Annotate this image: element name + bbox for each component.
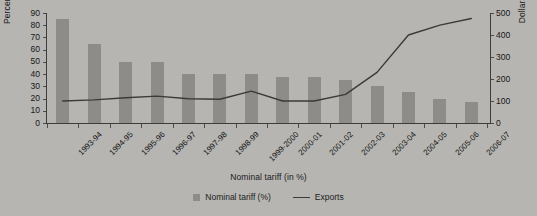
- x-axis-category-label: 2006-07: [485, 130, 512, 157]
- x-axis-category-label: 2005-06: [453, 130, 480, 157]
- y-axis-right-tick-label: 0: [496, 119, 522, 128]
- y-axis-left-tick-label: 20: [18, 94, 40, 103]
- y-axis-left-tickmark: [43, 25, 46, 26]
- y-axis-left-tick-label: 40: [18, 70, 40, 79]
- legend-square-swatch-icon: [193, 194, 200, 201]
- x-axis-tickmark: [173, 124, 174, 128]
- y-axis-left-tick-label: 30: [18, 82, 40, 91]
- chart-legend: Nominal tariff (%) Exports: [0, 192, 537, 202]
- x-axis-category-label: 2002-03: [359, 130, 386, 157]
- exports-line-series: [47, 13, 487, 123]
- y-axis-left-tick-label: 90: [18, 9, 40, 18]
- legend-line-swatch-icon: [293, 197, 310, 198]
- legend-label-nominal-tariff: Nominal tariff (%): [205, 192, 271, 202]
- y-axis-right-tick-label: 500: [496, 9, 522, 18]
- x-axis-tickmark: [267, 124, 268, 128]
- x-axis-category-label: 1994-95: [108, 130, 135, 157]
- y-axis-left-tickmark: [43, 111, 46, 112]
- x-axis-category-label: 1998-99: [233, 130, 260, 157]
- x-axis-tickmark: [78, 124, 79, 128]
- x-axis-category-label: 2003-04: [391, 130, 418, 157]
- x-axis-tickmark: [393, 124, 394, 128]
- x-axis-category-label: 1995-96: [139, 130, 166, 157]
- x-axis-category-label: 2001-02: [328, 130, 355, 157]
- x-axis-tickmark: [204, 124, 205, 128]
- x-axis-title: Nominal tariff (in %): [0, 172, 537, 182]
- y-axis-right-tickmark: [491, 35, 494, 36]
- x-axis-tickmark: [47, 124, 48, 128]
- y-axis-left-tickmark: [43, 50, 46, 51]
- legend-label-exports: Exports: [315, 192, 344, 202]
- y-axis-right-line: [490, 13, 491, 124]
- x-axis-tickmark: [424, 124, 425, 128]
- y-axis-right-tick-label: 300: [496, 53, 522, 62]
- legend-item-exports: Exports: [293, 192, 344, 202]
- x-axis-tickmark: [330, 124, 331, 128]
- y-axis-right-tickmark: [491, 57, 494, 58]
- x-axis-tickmark: [110, 124, 111, 128]
- y-axis-right-tickmark: [491, 101, 494, 102]
- y-axis-left-tickmark: [43, 99, 46, 100]
- y-axis-left-tick-label: 10: [18, 106, 40, 115]
- x-axis-tickmark: [456, 124, 457, 128]
- y-axis-left-tickmark: [43, 123, 46, 124]
- x-axis-category-label: 1993-94: [76, 130, 103, 157]
- y-axis-left-tick-label: 50: [18, 57, 40, 66]
- x-axis-tickmark: [487, 124, 488, 128]
- plot-area: [47, 13, 487, 123]
- x-axis-tickmark: [141, 124, 142, 128]
- x-axis-tickmark: [298, 124, 299, 128]
- y-axis-right-tickmark: [491, 13, 494, 14]
- x-axis-category-label: 2004-05: [422, 130, 449, 157]
- y-axis-left-tickmark: [43, 86, 46, 87]
- y-axis-right-tick-label: 200: [496, 75, 522, 84]
- y-axis-left-tickmark: [43, 62, 46, 63]
- x-axis-category-label: 1996-97: [171, 130, 198, 157]
- y-axis-right-tickmark: [491, 123, 494, 124]
- y-axis-right-tick-label: 400: [496, 31, 522, 40]
- x-axis-category-label: 1997-98: [202, 130, 229, 157]
- y-axis-left-tickmark: [43, 37, 46, 38]
- x-axis-tickmark: [236, 124, 237, 128]
- y-axis-left-title: Percent: [2, 0, 12, 44]
- y-axis-left-tickmark: [43, 13, 46, 14]
- y-axis-left-tick-label: 70: [18, 33, 40, 42]
- y-axis-right-tickmark: [491, 79, 494, 80]
- legend-item-nominal-tariff: Nominal tariff (%): [193, 192, 271, 202]
- x-axis-category-label: 2000-01: [296, 130, 323, 157]
- y-axis-right-tick-label: 100: [496, 97, 522, 106]
- y-axis-left-tickmark: [43, 74, 46, 75]
- y-axis-left-tick-label: 0: [18, 119, 40, 128]
- y-axis-left-tick-label: 80: [18, 21, 40, 30]
- x-axis-tickmark: [361, 124, 362, 128]
- chart-container: Percent Dollars (millions) 9080706050403…: [0, 0, 537, 216]
- x-axis-category-label: 1999-2000: [267, 130, 300, 163]
- y-axis-left-tick-label: 60: [18, 45, 40, 54]
